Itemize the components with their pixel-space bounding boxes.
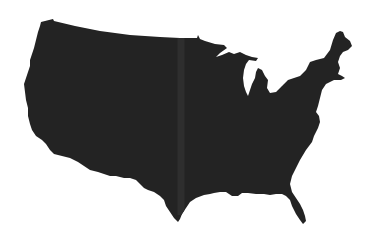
contiguous-us-silhouette xyxy=(24,19,352,224)
us-map xyxy=(0,0,379,242)
map-fold-seam xyxy=(178,38,185,215)
us-map-svg xyxy=(0,0,379,242)
